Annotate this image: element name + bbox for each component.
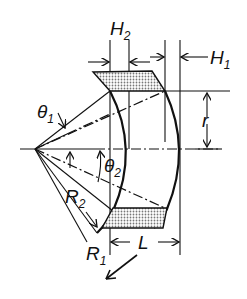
bottom-shaded-section: [102, 208, 167, 228]
label-h1: H1: [210, 47, 230, 72]
diagram-canvas: H2 H1 θ1 θ2 R2 R1 r L: [0, 0, 247, 299]
label-h2: H2: [110, 18, 131, 43]
top-shaded-section: [93, 71, 165, 91]
label-theta2: θ2: [104, 155, 121, 180]
direction-arrow: [106, 255, 137, 279]
r-dimension: [195, 93, 222, 149]
theta1-arrow: [58, 113, 65, 128]
label-l: L: [138, 232, 149, 253]
label-r: r: [202, 110, 209, 131]
label-theta1: θ1: [37, 101, 54, 126]
label-r1: R1: [86, 243, 106, 268]
